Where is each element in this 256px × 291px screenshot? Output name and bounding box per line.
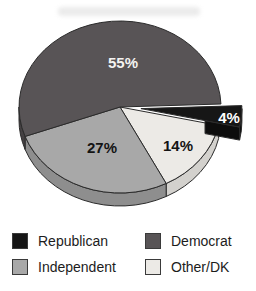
legend-label-other-dk: Other/DK <box>161 259 229 275</box>
legend-item-republican: Republican <box>12 233 145 249</box>
legend: Republican Independent Democrat Other/DK <box>12 233 232 275</box>
legend-swatch-republican <box>12 233 28 249</box>
pie-label-independent: 27% <box>87 139 117 156</box>
legend-item-democrat: Democrat <box>145 233 232 249</box>
pie-chart-3d: 4%14%27%55% <box>0 0 256 224</box>
legend-swatch-other-dk <box>145 259 161 275</box>
pie-label-democrat: 55% <box>108 54 138 71</box>
legend-swatch-independent <box>12 259 28 275</box>
legend-label-republican: Republican <box>28 233 108 249</box>
pie-chart-figure: 4%14%27%55% Republican Independent Democ… <box>0 0 256 291</box>
legend-label-democrat: Democrat <box>161 233 232 249</box>
legend-item-independent: Independent <box>12 259 145 275</box>
legend-item-other-dk: Other/DK <box>145 259 232 275</box>
legend-swatch-democrat <box>145 233 161 249</box>
pie-label-other/dk: 14% <box>163 137 193 154</box>
legend-label-independent: Independent <box>28 259 116 275</box>
pie-label-republican: 4% <box>218 109 240 126</box>
